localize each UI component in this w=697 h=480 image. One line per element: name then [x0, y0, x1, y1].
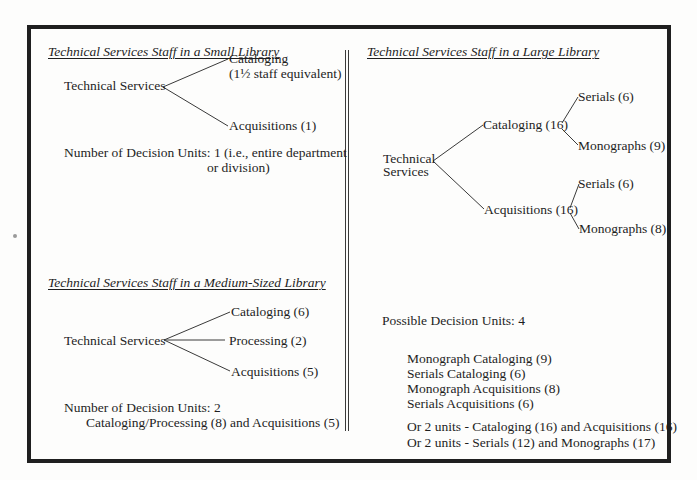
medium-processing-node: Processing (2): [229, 333, 307, 348]
large-root-node-line2: Services: [383, 164, 429, 179]
small-acquisitions-node: Acquisitions (1): [229, 118, 316, 133]
large-acquisitions-serials-node: Serials (6): [578, 176, 634, 191]
large-library-title: Technical Services Staff in a Large Libr…: [367, 44, 599, 59]
medium-root-node: Technical Services: [64, 333, 165, 348]
large-cataloging-monographs-node: Monographs (9): [578, 138, 665, 153]
column-divider: [345, 50, 349, 431]
large-acquisitions-monographs-node: Monographs (8): [579, 221, 666, 236]
medium-decision-units: Number of Decision Units: 2: [64, 400, 221, 415]
unit-item: Monograph Acquisitions (8): [407, 381, 560, 396]
medium-library-title: Technical Services Staff in a Medium-Siz…: [48, 275, 326, 290]
alternative-item: Or 2 units - Serials (12) and Monographs…: [407, 435, 655, 450]
small-cataloging-note: (1½ staff equivalent): [229, 66, 342, 81]
small-root-node: Technical Services: [64, 78, 165, 93]
small-decision-units: Number of Decision Units: 1 (i.e., entir…: [64, 145, 347, 160]
large-cataloging-serials-node: Serials (6): [578, 89, 634, 104]
medium-cataloging-node: Cataloging (6): [231, 304, 309, 319]
unit-item: Serials Acquisitions (6): [407, 396, 534, 411]
large-possible-units: Possible Decision Units: 4: [382, 313, 525, 328]
medium-acquisitions-node: Acquisitions (5): [231, 364, 318, 379]
medium-decision-units-detail: Cataloging/Processing (8) and Acquisitio…: [86, 415, 339, 430]
large-acquisitions-node: Acquisitions (16): [484, 202, 578, 217]
document-page: Technical Services Staff in a Small Libr…: [0, 0, 697, 480]
unit-item: Serials Cataloging (6): [407, 366, 525, 381]
stray-mark: [13, 234, 17, 238]
unit-item: Monograph Cataloging (9): [407, 351, 552, 366]
alternative-item: Or 2 units - Cataloging (16) and Acquisi…: [407, 419, 677, 434]
large-cataloging-node: Cataloging (16): [483, 117, 568, 132]
small-cataloging-node: Cataloging: [229, 51, 288, 66]
small-decision-units-cont: or division): [207, 160, 270, 175]
